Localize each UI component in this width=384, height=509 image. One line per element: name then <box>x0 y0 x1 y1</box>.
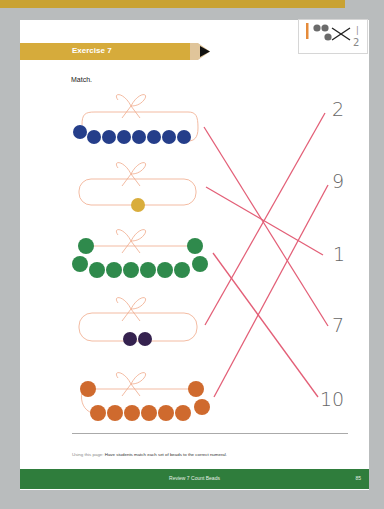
teacher-note-lead: Using this page: <box>72 452 104 457</box>
pencil-tip-icon <box>190 43 210 60</box>
match-line-10 <box>213 253 318 397</box>
footer-title: Review 7 Count Beads <box>20 475 369 481</box>
bead-set-1-gold <box>79 163 196 212</box>
bead-set-10-orange <box>80 373 210 421</box>
teacher-note-text: Have students match each set of beads to… <box>105 452 227 457</box>
page-footer: Review 7 Count Beads 85 <box>20 469 369 489</box>
numeral-7: 7 <box>332 314 344 336</box>
bead-set-7-navy <box>73 95 198 144</box>
numeral-1: 1 <box>333 243 345 265</box>
numeral-2: 2 <box>332 98 344 120</box>
match-lines <box>204 113 328 397</box>
numeral-10: 10 <box>320 388 344 410</box>
svg-text:2: 2 <box>353 37 359 48</box>
page-number: 85 <box>355 475 361 481</box>
match-line-9 <box>214 185 328 397</box>
divider <box>72 433 348 434</box>
bead-set-10-green <box>72 230 208 278</box>
bead-set-2-purple <box>79 298 197 346</box>
numeral-9: 9 <box>332 170 344 192</box>
match-activity-icon: | 2 <box>306 23 359 48</box>
teacher-note: Using this page: Have students match eac… <box>72 452 227 457</box>
match-line-7 <box>204 127 328 326</box>
svg-text:|: | <box>356 26 359 35</box>
